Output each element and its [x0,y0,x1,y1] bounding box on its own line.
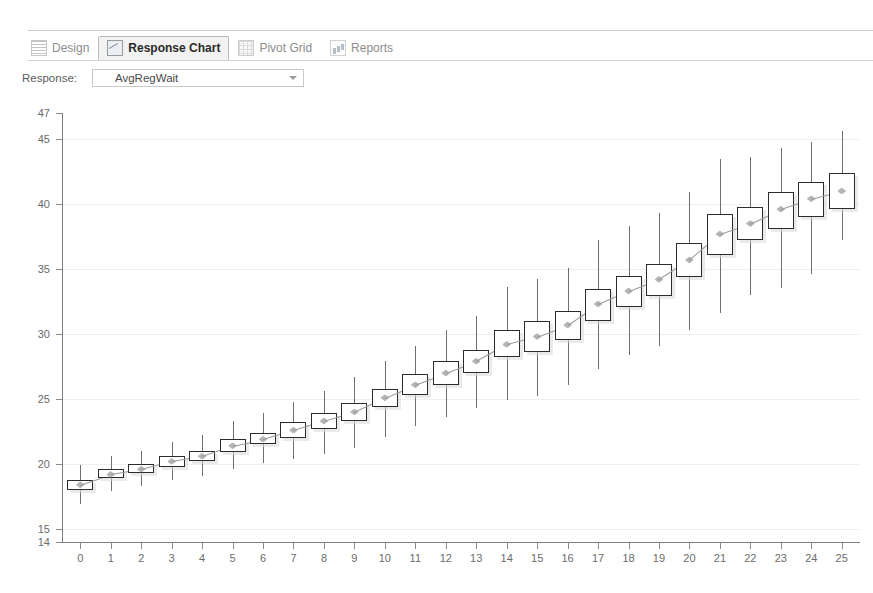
x-axis-label: 10 [373,552,397,564]
x-axis-label: 23 [769,552,793,564]
y-axis-tick [56,139,62,140]
x-axis-tick [507,543,508,549]
tab-label: Response Chart [128,41,220,55]
chart-icon [107,40,123,56]
x-axis-tick [263,543,264,549]
x-axis-tick [781,543,782,549]
x-axis-label: 14 [495,552,519,564]
y-axis-label: 40 [22,198,50,210]
x-axis-label: 7 [281,552,305,564]
x-axis-label: 25 [830,552,854,564]
x-axis-label: 0 [68,552,92,564]
grid-icon [238,40,254,56]
x-axis-label: 21 [708,552,732,564]
x-axis-tick [629,543,630,549]
design-icon [31,40,47,56]
response-dropdown-value: AvgRegWait [93,72,178,84]
x-axis-label: 12 [434,552,458,564]
x-axis-line [62,542,860,543]
x-axis-tick [141,543,142,549]
y-axis-label: 45 [22,133,50,145]
y-axis-label: 15 [22,523,50,535]
x-axis-label: 17 [586,552,610,564]
response-chart: 1415202530354045470123456789101112131415… [0,95,873,593]
report-icon [330,40,346,56]
x-axis-tick [415,543,416,549]
tab-label: Pivot Grid [259,41,312,55]
y-axis-tick [56,204,62,205]
x-axis-label: 2 [129,552,153,564]
y-axis-label: 47 [22,107,50,119]
response-dropdown[interactable]: AvgRegWait [92,69,304,87]
y-axis-label: 35 [22,263,50,275]
gridline [62,204,860,205]
y-axis-tick [56,542,62,543]
response-label: Response: [22,72,92,84]
x-axis-label: 3 [160,552,184,564]
x-axis-tick [842,543,843,549]
x-axis-label: 20 [677,552,701,564]
y-axis-line [62,113,63,542]
x-axis-tick [80,543,81,549]
x-axis-label: 8 [312,552,336,564]
x-axis-label: 18 [617,552,641,564]
x-axis-label: 19 [647,552,671,564]
x-axis-tick [689,543,690,549]
x-axis-label: 16 [556,552,580,564]
x-axis-label: 24 [799,552,823,564]
x-axis-label: 5 [221,552,245,564]
window-top-rule [28,30,873,31]
x-axis-label: 22 [738,552,762,564]
x-axis-tick [233,543,234,549]
x-axis-tick [811,543,812,549]
gridline [62,399,860,400]
x-axis-tick [476,543,477,549]
y-axis-label: 30 [22,328,50,340]
x-axis-tick [385,543,386,549]
y-axis-tick [56,334,62,335]
x-axis-tick [324,543,325,549]
x-axis-tick [720,543,721,549]
tab-pivot-grid[interactable]: Pivot Grid [229,36,321,60]
response-selector-row: Response: AvgRegWait [22,68,304,88]
x-axis-label: 1 [99,552,123,564]
x-axis-label: 6 [251,552,275,564]
gridline [62,139,860,140]
y-axis-tick [56,269,62,270]
tab-strip-underline [28,60,873,61]
x-axis-tick [598,543,599,549]
x-axis-tick [111,543,112,549]
y-axis-tick [56,113,62,114]
tab-label: Reports [351,41,393,55]
x-axis-tick [537,543,538,549]
x-axis-tick [354,543,355,549]
y-axis-tick [56,399,62,400]
tab-label: Design [52,41,89,55]
tab-response-chart[interactable]: Response Chart [98,36,229,60]
tab-reports[interactable]: Reports [321,36,402,60]
chevron-down-icon [289,76,297,80]
x-axis-label: 15 [525,552,549,564]
plot-canvas: 1415202530354045470123456789101112131415… [0,95,873,593]
tab-strip: DesignResponse ChartPivot GridReports [22,36,402,60]
y-axis-label: 20 [22,458,50,470]
y-axis-tick [56,464,62,465]
x-axis-tick [568,543,569,549]
x-axis-tick [202,543,203,549]
y-axis-label: 14 [22,536,50,548]
x-axis-label: 11 [403,552,427,564]
gridline [62,269,860,270]
y-axis-label: 25 [22,393,50,405]
gridline [62,334,860,335]
x-axis-tick [446,543,447,549]
y-axis-tick [56,529,62,530]
x-axis-label: 4 [190,552,214,564]
x-axis-tick [750,543,751,549]
tab-design[interactable]: Design [22,36,98,60]
x-axis-label: 13 [464,552,488,564]
x-axis-label: 9 [342,552,366,564]
x-axis-tick [293,543,294,549]
x-axis-tick [659,543,660,549]
gridline [62,529,860,530]
x-axis-tick [172,543,173,549]
